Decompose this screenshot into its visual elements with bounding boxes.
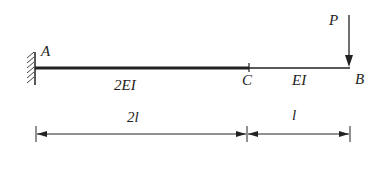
point-a-label: A	[41, 44, 50, 59]
point-c-label: C	[242, 73, 252, 88]
stiffness-cb-label: EI	[292, 73, 306, 88]
length-cb-label: l	[292, 108, 296, 123]
dimension-lines	[36, 126, 350, 142]
load-p-label: P	[329, 13, 338, 28]
stiffness-ac-label: 2EI	[114, 78, 136, 93]
point-b-label: B	[355, 72, 364, 87]
fixed-support-icon	[27, 52, 35, 85]
length-ac-label: 2l	[127, 110, 139, 125]
beam-diagram: A C B P 2EI EI 2l l	[0, 0, 386, 169]
load-arrow-icon	[345, 15, 353, 67]
